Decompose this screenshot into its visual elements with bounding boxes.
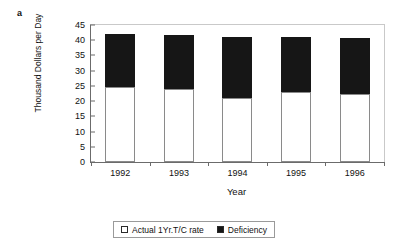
y-axis-tick-label: 5 bbox=[80, 142, 91, 151]
bar-segment-deficiency[interactable] bbox=[164, 35, 194, 89]
y-axis-tick-label: 30 bbox=[75, 66, 91, 75]
x-axis-tick-mark bbox=[267, 162, 268, 166]
x-axis-tick-mark bbox=[150, 162, 151, 166]
x-axis-tick-label: 1995 bbox=[286, 168, 306, 178]
legend-label: Actual 1Yr.T/C rate bbox=[132, 225, 204, 235]
x-axis-tick-mark bbox=[208, 162, 209, 166]
y-axis-tick-label: 0 bbox=[80, 158, 91, 167]
y-axis-tick-label: 35 bbox=[75, 51, 91, 60]
bar-segment-actual-rate[interactable] bbox=[105, 87, 135, 162]
x-axis-tick-label: 1994 bbox=[227, 168, 247, 178]
bar-segment-deficiency[interactable] bbox=[340, 38, 370, 94]
y-axis-tick-label: 10 bbox=[75, 127, 91, 136]
y-axis-tick-label: 20 bbox=[75, 97, 91, 106]
x-axis-title: Year bbox=[90, 186, 383, 197]
legend-item[interactable]: Deficiency bbox=[217, 225, 267, 235]
x-axis-tick-label: 1993 bbox=[169, 168, 189, 178]
bar-segment-deficiency[interactable] bbox=[281, 37, 311, 92]
chart-legend: Actual 1Yr.T/C rateDeficiency bbox=[113, 221, 275, 238]
bar-segment-deficiency[interactable] bbox=[222, 37, 252, 98]
bar-group: 1994 bbox=[208, 25, 267, 162]
legend-item[interactable]: Actual 1Yr.T/C rate bbox=[121, 225, 204, 235]
legend-swatch-black bbox=[217, 226, 224, 233]
y-axis-tick-label: 15 bbox=[75, 112, 91, 121]
x-axis-tick-mark bbox=[384, 162, 385, 166]
y-axis-tick-label: 45 bbox=[75, 21, 91, 30]
x-axis-tick-mark bbox=[325, 162, 326, 166]
y-axis-title: Thousand Dollars per Day bbox=[33, 0, 43, 138]
bar-segment-actual-rate[interactable] bbox=[164, 89, 194, 162]
bar-segment-deficiency[interactable] bbox=[105, 34, 135, 87]
x-axis-tick-label: 1996 bbox=[345, 168, 365, 178]
x-axis-tick-label: 1992 bbox=[110, 168, 130, 178]
legend-swatch-white bbox=[121, 226, 128, 233]
bar-group: 1993 bbox=[150, 25, 209, 162]
bar-group: 1995 bbox=[267, 25, 326, 162]
y-axis-tick-label: 40 bbox=[75, 36, 91, 45]
figure-panel-a: a Thousand Dollars per Day 0510152025303… bbox=[0, 0, 418, 251]
y-axis-tick-label: 25 bbox=[75, 81, 91, 90]
bar-group: 1996 bbox=[325, 25, 384, 162]
plot-area: 05101520253035404519921993199419951996 bbox=[90, 24, 385, 163]
x-axis-tick-mark bbox=[91, 162, 92, 166]
panel-letter: a bbox=[17, 8, 22, 18]
bar-segment-actual-rate[interactable] bbox=[340, 94, 370, 162]
bar-group: 1992 bbox=[91, 25, 150, 162]
legend-label: Deficiency bbox=[228, 225, 267, 235]
bar-segment-actual-rate[interactable] bbox=[281, 92, 311, 162]
bar-segment-actual-rate[interactable] bbox=[222, 98, 252, 162]
